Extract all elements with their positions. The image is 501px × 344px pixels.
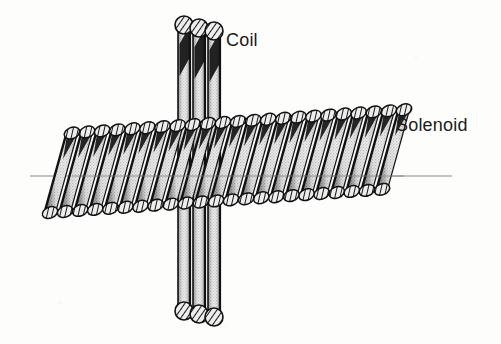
label-solenoid: Solenoid [396,115,468,136]
figure-canvas: Coil Solenoid [0,0,501,344]
solenoid-diagram [0,0,501,344]
solenoid-winding [41,102,414,221]
label-coil: Coil [226,30,258,51]
